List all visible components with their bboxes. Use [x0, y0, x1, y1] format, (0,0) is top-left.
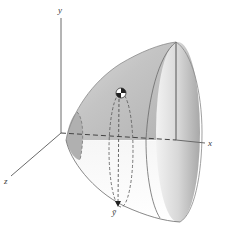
y-axis-label: y — [58, 6, 62, 15]
diagram: y x z ȳ — [0, 0, 229, 231]
z-axis-label: z — [4, 177, 8, 186]
centroid-marker-icon — [116, 88, 126, 98]
paraboloid-figure — [0, 0, 229, 231]
centroid-y-bar-label: ȳ — [112, 208, 116, 217]
x-axis-label: x — [208, 139, 212, 148]
z-axis — [11, 133, 61, 176]
base-face — [156, 42, 200, 222]
vertex-shadow — [66, 112, 83, 160]
